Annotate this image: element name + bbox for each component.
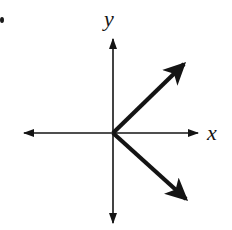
y-axis-label: y [104, 8, 114, 30]
diagram-svg [0, 0, 232, 230]
edge-speck-mark [0, 17, 4, 23]
vector-lower-right [113, 133, 186, 199]
vector-diagram-figure: y x [0, 0, 232, 230]
x-axis-label: x [207, 122, 217, 144]
vector-upper-right [113, 64, 184, 133]
